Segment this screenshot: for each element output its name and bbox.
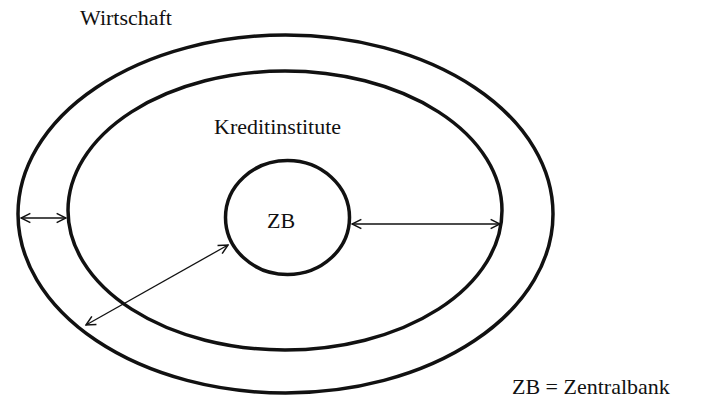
legend-text: ZB = Zentralbank xyxy=(512,376,670,398)
central-bank-label: ZB xyxy=(267,210,295,232)
credit-institutions-label: Kreditinstitute xyxy=(214,116,341,138)
nested-ellipses-diagram xyxy=(0,0,701,413)
arrow-centralbank-economy xyxy=(86,245,228,325)
economy-label: Wirtschaft xyxy=(80,7,172,29)
